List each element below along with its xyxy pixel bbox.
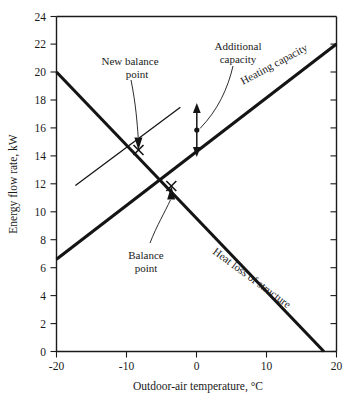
annotation-balance-point: Balance point: [128, 249, 164, 274]
x-tick-label: -20: [49, 360, 65, 372]
chart-figure: 0 2 4 6 8 10 12 14 16 18 20 22 24 -20 -1…: [0, 0, 358, 403]
leader-balance-point: [150, 186, 175, 243]
chart-canvas: 0 2 4 6 8 10 12 14 16 18 20 22 24 -20 -1…: [0, 0, 358, 403]
x-axis-ticks: [57, 352, 337, 358]
y-axis-ticks-right: [331, 44, 337, 351]
y-tick-label: 8: [40, 234, 46, 246]
y-axis-ticks: [51, 17, 57, 352]
y-tick-label: 20: [35, 66, 47, 78]
y-axis-title: Energy flow rate, kW: [7, 134, 20, 234]
x-axis-title: Outdoor-air temperature, °C: [133, 380, 263, 393]
annotation-line-1: New balance: [101, 55, 158, 67]
plot-axes: [57, 17, 337, 352]
annotation-line-2: point: [126, 68, 149, 80]
y-tick-label: 22: [35, 38, 47, 50]
y-tick-label: 6: [40, 262, 46, 274]
series-heat-loss-of-structure: [57, 72, 324, 352]
series-increased-heating-capacity: [75, 107, 180, 185]
y-tick-label: 4: [40, 290, 46, 302]
y-tick-label: 12: [35, 178, 47, 190]
x-tick-label: 0: [194, 360, 200, 372]
annotation-additional-capacity: Additional capacity: [214, 40, 261, 65]
annotation-line-1: Additional: [214, 40, 261, 52]
x-tick-labels: -20 -10 0 10 20: [49, 360, 343, 372]
curve-label-heat-loss-of-structure: Heat loss of structure: [211, 245, 294, 310]
y-tick-label: 10: [35, 206, 47, 218]
y-tick-label: 16: [35, 122, 47, 134]
x-tick-label: -10: [119, 360, 135, 372]
x-tick-label: 20: [331, 360, 343, 372]
leader-new-balance-point: [131, 80, 142, 150]
y-tick-label: 14: [35, 150, 47, 162]
annotation-line-2: capacity: [220, 53, 257, 65]
double-arrow-additional-capacity: [193, 103, 201, 157]
leader-additional-capacity: [200, 66, 233, 129]
y-tick-label: 24: [35, 11, 47, 23]
y-tick-labels: 0 2 4 6 8 10 12 14 16 18 20 22 24: [35, 11, 47, 358]
annotation-new-balance-point: New balance point: [101, 55, 158, 80]
y-tick-label: 18: [35, 94, 47, 106]
annotation-line-2: point: [135, 262, 158, 274]
y-tick-label: 2: [40, 318, 46, 330]
annotation-line-1: Balance: [128, 249, 164, 261]
axis-spines: [57, 17, 337, 352]
x-tick-label: 10: [261, 360, 273, 372]
y-tick-label: 0: [40, 346, 46, 358]
